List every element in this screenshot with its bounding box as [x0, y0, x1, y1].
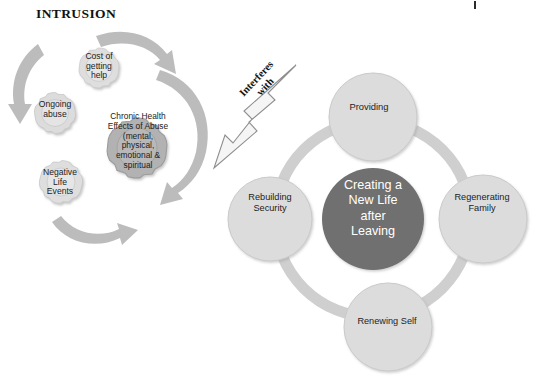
interferes-with-arrow	[214, 65, 296, 168]
cycle-node-regenerating-family	[439, 175, 527, 263]
gear-ongoing-abuse	[32, 89, 79, 136]
cycle-node-rebuilding-security	[228, 177, 312, 261]
page-title: INTRUSION	[36, 6, 116, 22]
scan-artifact-speck	[474, 1, 476, 9]
diagram-canvas: INTRUSION Cost of getting help Ongoing a…	[0, 0, 539, 383]
rotation-arrow-bottom	[52, 216, 138, 245]
gear-cost-of-getting-help	[77, 45, 121, 90]
gear-chronic-health-effects	[105, 115, 170, 181]
cycle-center-node	[322, 168, 424, 270]
gear-negative-life-events	[35, 156, 86, 208]
cycle-node-renewing-self	[344, 283, 432, 371]
cycle-node-providing	[329, 73, 417, 161]
diagram-graphics	[0, 0, 539, 383]
